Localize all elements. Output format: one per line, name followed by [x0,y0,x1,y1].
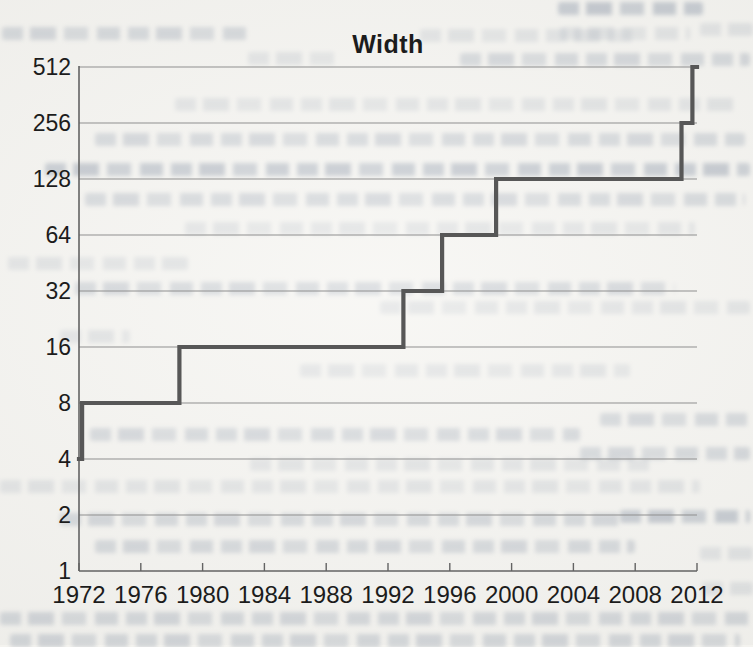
x-tick-label-2004: 2004 [547,581,600,608]
y-tick-label-8: 8 [58,390,71,416]
y-tick-label-512: 512 [33,54,71,80]
y-tick-label-128: 128 [33,166,71,192]
x-tick-label-1992: 1992 [361,581,414,608]
x-tick-label-1972: 1972 [52,581,105,608]
y-tick-label-256: 256 [33,110,71,136]
y-tick-label-2: 2 [58,502,71,528]
x-tick-label-1980: 1980 [176,581,229,608]
x-tick-label-1996: 1996 [423,581,476,608]
y-tick-label-32: 32 [45,278,71,304]
x-tick-label-1984: 1984 [238,581,291,608]
y-tick-label-16: 16 [45,334,71,360]
y-tick-label-1: 1 [58,558,71,584]
x-tick-label-1988: 1988 [300,581,353,608]
width-step-line [79,67,697,459]
y-tick-label-64: 64 [45,222,71,248]
y-tick-label-4: 4 [58,446,71,472]
x-tick-label-2008: 2008 [609,581,662,608]
x-tick-label-1976: 1976 [114,581,167,608]
x-tick-label-2012: 2012 [670,581,723,608]
x-tick-label-2000: 2000 [485,581,538,608]
